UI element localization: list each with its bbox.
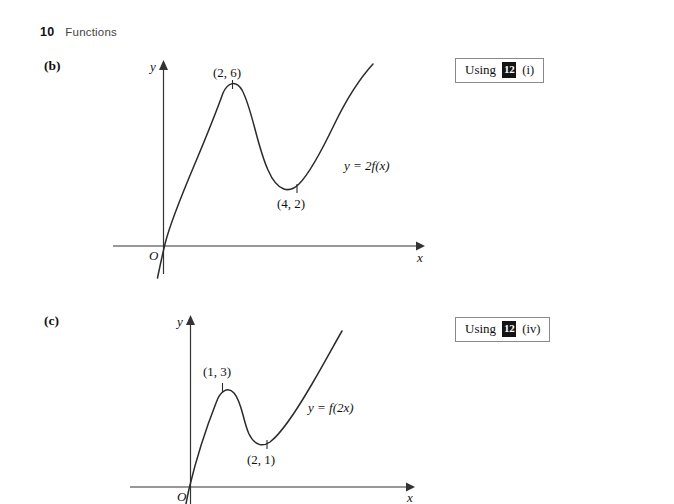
x-axis-label-b: x	[416, 250, 423, 265]
using-prefix-c: Using	[465, 321, 496, 337]
using-reference-box-c: Using 12 (iv)	[455, 317, 550, 342]
x-axis-b	[113, 242, 425, 251]
chapter-title: Functions	[65, 26, 117, 38]
y-axis-label-c: y	[175, 314, 183, 329]
graph-svg-c: (1, 3) (2, 1) y = f(2x) y x O	[130, 305, 450, 504]
origin-label-b: O	[149, 248, 159, 263]
part-label-c: (c)	[44, 313, 59, 329]
annotation-min-b: (4, 2)	[277, 196, 305, 211]
y-axis-label-b: y	[148, 59, 156, 74]
using-reference-box-b: Using 12 (i)	[455, 58, 544, 83]
using-roman-b: (i)	[522, 63, 534, 78]
x-axis-label-c: x	[406, 490, 413, 504]
page-number: 10	[40, 25, 54, 39]
using-roman-c: (iv)	[522, 322, 540, 337]
graph-figure-c: (1, 3) (2, 1) y = f(2x) y x O	[130, 305, 450, 504]
curve-equation-label-b: y = 2f(x)	[342, 158, 390, 173]
graph-svg-b: (2, 6) (4, 2) y = 2f(x) y x O	[100, 50, 440, 290]
y-axis-b	[159, 60, 168, 274]
part-label-b: (b)	[44, 58, 61, 74]
annotation-max-c: (1, 3)	[203, 364, 231, 379]
curve-path-c	[186, 331, 342, 504]
using-chip-b: 12	[502, 62, 516, 78]
page-header: 10 Functions	[40, 25, 117, 39]
x-axis-c	[130, 483, 415, 492]
origin-label-c: O	[177, 489, 187, 504]
using-chip-c: 12	[502, 321, 516, 337]
using-prefix-b: Using	[465, 62, 496, 78]
annotation-max-b: (2, 6)	[213, 65, 241, 80]
graph-figure-b: (2, 6) (4, 2) y = 2f(x) y x O	[100, 50, 440, 290]
y-axis-c	[186, 315, 195, 504]
annotation-min-c: (2, 1)	[247, 452, 275, 467]
curve-equation-label-c: y = f(2x)	[306, 400, 354, 415]
